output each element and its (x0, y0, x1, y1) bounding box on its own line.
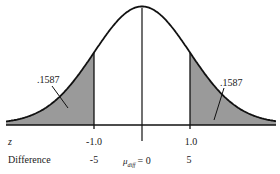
left-tail-shaded-area (6, 53, 94, 126)
difference-tick-right: 5 (187, 154, 192, 165)
mean-label: μdiff= 0 (122, 155, 151, 168)
mean-label-equals: = 0 (138, 155, 151, 166)
mean-label-subscript: diff (128, 162, 137, 168)
z-tick-left: -1.0 (86, 136, 102, 147)
z-tick-right: 1.0 (185, 136, 198, 147)
normal-curve (6, 7, 276, 122)
difference-tick-left: -5 (90, 154, 98, 165)
z-axis-label: z (7, 136, 12, 147)
difference-axis-label: Difference (8, 154, 51, 165)
right-tail-shaded-area (190, 53, 276, 126)
left-tail-area-label: .1587 (37, 74, 60, 85)
normal-distribution-figure: .1587 .1587 z -1.0 1.0 Difference -5 5 μ… (0, 0, 280, 174)
right-tail-area-label: .1587 (220, 77, 243, 88)
